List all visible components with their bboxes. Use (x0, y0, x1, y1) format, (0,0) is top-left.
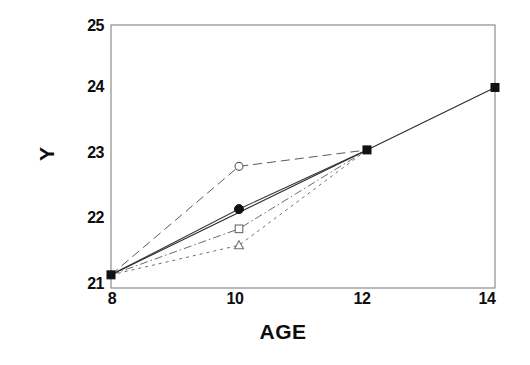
series-line-series-main (111, 87, 495, 274)
data-point-series-4-10 (235, 241, 244, 249)
chart-figure: 25 24 23 22 21 8 10 12 14 Y AGE (0, 0, 530, 365)
data-point-series-main-12 (363, 146, 371, 154)
data-point-series-2-10 (235, 205, 244, 214)
data-point-series-main-8 (107, 271, 115, 279)
data-point-series-3-10 (235, 225, 243, 233)
data-point-series-main-14 (491, 83, 499, 91)
plot-area (0, 0, 530, 365)
series-layer (111, 87, 495, 274)
data-point-series-1-10 (235, 162, 243, 170)
plot-frame (111, 25, 495, 288)
